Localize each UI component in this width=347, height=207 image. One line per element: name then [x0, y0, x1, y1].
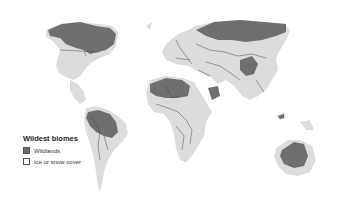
legend-label: Ice or snow cover	[34, 159, 81, 165]
north-america	[46, 22, 118, 104]
south-america	[84, 106, 128, 192]
australia	[274, 140, 316, 176]
legend-label: Wildlands	[34, 148, 60, 154]
small-island	[146, 22, 152, 30]
africa	[146, 76, 220, 162]
legend-title: Wildest biomes	[23, 134, 81, 143]
legend-item-wildlands: Wildlands	[23, 145, 81, 156]
southeast-asia-islands	[276, 112, 314, 130]
ice-snow-swatch-icon	[23, 158, 30, 165]
world-map	[0, 0, 347, 207]
legend-item-ice-or-snow: Ice or snow cover	[23, 156, 81, 167]
wildlands-swatch-icon	[23, 147, 30, 154]
map-legend: Wildest biomes Wildlands Ice or snow cov…	[23, 134, 81, 167]
